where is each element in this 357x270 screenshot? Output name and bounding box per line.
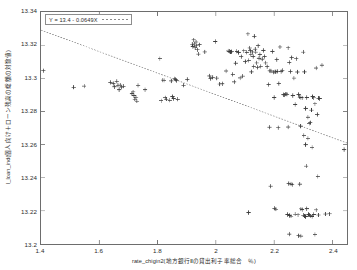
y-tick-label: 13.34 [3, 8, 37, 14]
scatter-plot-figure: l_loan_ind(個人向け＋ローン残高の総額の対数値) 13.213.221… [0, 0, 357, 270]
x-tick-label: 1.4 [25, 247, 55, 254]
y-tick-label: 13.26 [3, 142, 37, 148]
x-tick-label: 2.2 [260, 247, 290, 254]
scatter-canvas [41, 12, 347, 244]
y-tick-label: 13.3 [3, 75, 37, 81]
x-tick-label: 1.6 [84, 247, 114, 254]
y-tick-label: 13.24 [3, 175, 37, 181]
plot-area [40, 11, 348, 245]
x-tick-label: 1.8 [142, 247, 172, 254]
x-axis-tick-labels: 1.41.61.822.22.4 [40, 247, 348, 257]
y-tick-label: 13.28 [3, 108, 37, 114]
legend: Y = 13.4 - 0.0649X [45, 14, 132, 25]
x-tick-label: 2 [201, 247, 231, 254]
y-tick-label: 13.32 [3, 41, 37, 47]
legend-line-swatch [102, 19, 128, 20]
x-tick-label: 2.4 [318, 247, 348, 254]
y-axis-tick-labels: 13.213.2213.2413.2613.2813.313.3213.34 [0, 11, 37, 245]
legend-equation-label: Y = 13.4 - 0.0649X [49, 17, 98, 23]
x-axis-title: rate_chigin2(地方銀行Ⅱの貸出利子率総合 ％) [40, 257, 348, 265]
y-tick-label: 13.22 [3, 208, 37, 214]
